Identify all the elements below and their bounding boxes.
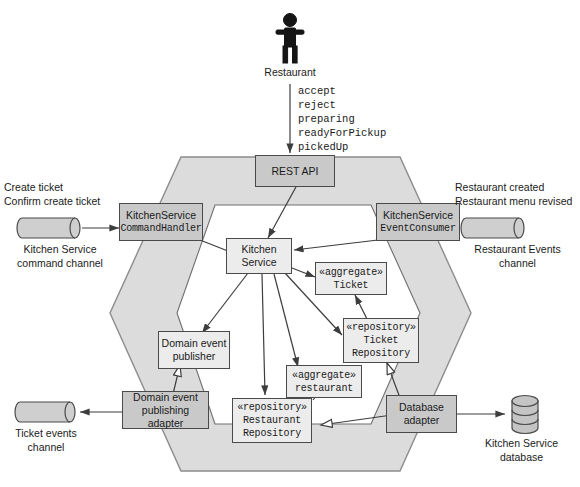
command-channel-messages: Create ticket Confirm create ticket — [4, 181, 116, 208]
domain-event-publisher-line1: Domain event — [162, 337, 227, 350]
publishing-adapter-line2: publishing adapter — [123, 404, 208, 430]
domain-event-publishing-adapter[interactable]: Domain event publishing adapter — [122, 391, 209, 429]
kitchen-service-line1: Kitchen — [241, 243, 276, 256]
kitchen-service-line2: Service — [241, 256, 276, 269]
restaurant-events-messages: Restaurant created Restaurant menu revis… — [455, 181, 580, 208]
event-consumer-line2: EventConsumer — [380, 222, 455, 235]
restaurant-aggregate-stereotype: «aggregate» — [292, 369, 356, 382]
ticket-aggregate-name: Ticket — [334, 279, 369, 292]
kitchen-service-domain[interactable]: Kitchen Service — [226, 238, 292, 274]
person-actor-icon — [276, 14, 304, 64]
restaurant-aggregate-name: restaurant — [295, 382, 353, 395]
message-channel-icon-restaurant-events — [461, 218, 524, 238]
event-consumer-line1: KitchenService — [383, 209, 453, 222]
command-channel-caption: Kitchen Service command channel — [4, 243, 116, 270]
domain-event-publisher[interactable]: Domain event publisher — [158, 331, 230, 369]
restaurant-repository-line2: Repository — [243, 427, 301, 440]
publishing-adapter-line1: Domain event — [133, 391, 198, 404]
operations-list: accept reject preparing readyForPickup p… — [298, 84, 386, 154]
restaurant-repository[interactable]: «repository» Restaurant Repository — [232, 398, 312, 443]
database-adapter-line1: Database — [399, 401, 444, 414]
ticket-aggregate[interactable]: «aggregate» Ticket — [315, 262, 387, 295]
actor-label: Restaurant — [255, 66, 325, 80]
message-channel-icon-command — [17, 218, 80, 238]
restaurant-repository-line1: Restaurant — [243, 414, 301, 427]
rest-api-label: REST API — [271, 165, 318, 178]
kitchen-service-database-caption: Kitchen Service database — [463, 437, 580, 464]
restaurant-events-caption: Restaurant Events channel — [455, 243, 580, 270]
database-adapter-line2: adapter — [404, 414, 440, 427]
ticket-repository-line1: Ticket — [364, 334, 399, 347]
command-handler-line2: CommandHandler — [120, 222, 201, 235]
command-handler-line1: KitchenService — [126, 209, 196, 222]
kitchen-service-command-handler-adapter[interactable]: KitchenService CommandHandler — [119, 203, 203, 241]
database-cylinder-icon — [512, 396, 538, 434]
architecture-diagram: Restaurant accept reject preparing ready… — [0, 0, 580, 487]
domain-event-publisher-line2: publisher — [173, 350, 216, 363]
restaurant-aggregate[interactable]: «aggregate» restaurant — [286, 365, 362, 398]
ticket-repository-line2: Repository — [352, 347, 410, 360]
rest-api-adapter[interactable]: REST API — [255, 155, 335, 187]
kitchen-service-event-consumer-adapter[interactable]: KitchenService EventConsumer — [376, 203, 460, 241]
ticket-events-caption: Ticket events channel — [0, 427, 92, 454]
ticket-aggregate-stereotype: «aggregate» — [319, 266, 383, 279]
ticket-repository[interactable]: «repository» Ticket Repository — [343, 318, 419, 363]
database-adapter[interactable]: Database adapter — [386, 395, 457, 433]
message-channel-icon-ticket-events — [15, 402, 75, 422]
restaurant-repository-stereotype: «repository» — [237, 401, 307, 414]
ticket-repository-stereotype: «repository» — [346, 321, 416, 334]
